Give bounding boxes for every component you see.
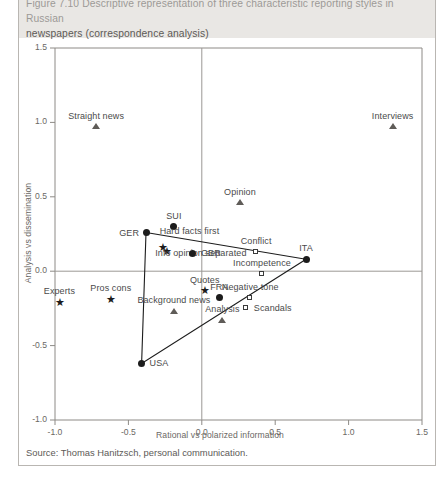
y-tick-label: 1.0	[13, 116, 47, 126]
y-axis-title: Analysis vs dissemination	[23, 143, 33, 323]
data-point-label: GER	[119, 228, 139, 238]
data-point-label: Opinion	[224, 187, 256, 197]
triangle-marker-icon	[236, 199, 244, 205]
data-point-label: Straight news	[68, 111, 124, 121]
y-tick-label: -1.0	[13, 414, 47, 424]
plot-canvas	[0, 0, 440, 478]
data-point-label: Analysis	[205, 304, 239, 314]
data-point-label: GBR	[201, 248, 221, 258]
triangle-marker-icon	[389, 123, 397, 129]
data-point-label: Conflict	[241, 236, 272, 246]
triangle-marker-icon	[92, 123, 100, 129]
source-note: Source: Thomas Hanitzsch, personal commu…	[26, 447, 248, 458]
square-marker-icon	[259, 271, 264, 276]
star-marker-icon: ★	[200, 286, 209, 295]
square-marker-icon	[247, 295, 252, 300]
circle-marker-icon	[303, 256, 310, 263]
circle-marker-icon	[138, 360, 145, 367]
data-point-label: USA	[150, 358, 169, 368]
star-marker-icon: ★	[55, 298, 64, 307]
square-marker-icon	[243, 305, 248, 310]
data-point-label: ITA	[299, 243, 313, 253]
square-marker-icon	[253, 249, 258, 254]
figure-container: Figure 7.10 Descriptive representation o…	[0, 0, 440, 478]
star-marker-icon: ★	[106, 295, 115, 304]
data-point-label: Experts	[44, 286, 75, 296]
y-tick-label: -0.5	[13, 340, 47, 350]
y-tick-label: 1.5	[13, 42, 47, 52]
x-axis-title: Rational vs polarized information	[0, 430, 440, 440]
circle-marker-icon	[143, 229, 150, 236]
data-point-label: Background news	[137, 295, 210, 305]
triangle-marker-icon	[170, 308, 178, 314]
data-point-label: Incompetence	[233, 258, 291, 268]
data-point-label: Interviews	[372, 111, 414, 121]
triangle-marker-icon	[218, 317, 226, 323]
data-point-label: Negative tone	[222, 282, 279, 292]
scatter-plot: -1.0-0.50.00.51.01.51.51.00.50.0-0.5-1.0…	[0, 0, 440, 478]
data-point-label: Pros cons	[90, 283, 131, 293]
data-point-label: Hard facts first	[160, 226, 220, 236]
data-point-label: SUI	[166, 211, 181, 221]
data-point-label: Scandals	[254, 303, 292, 313]
